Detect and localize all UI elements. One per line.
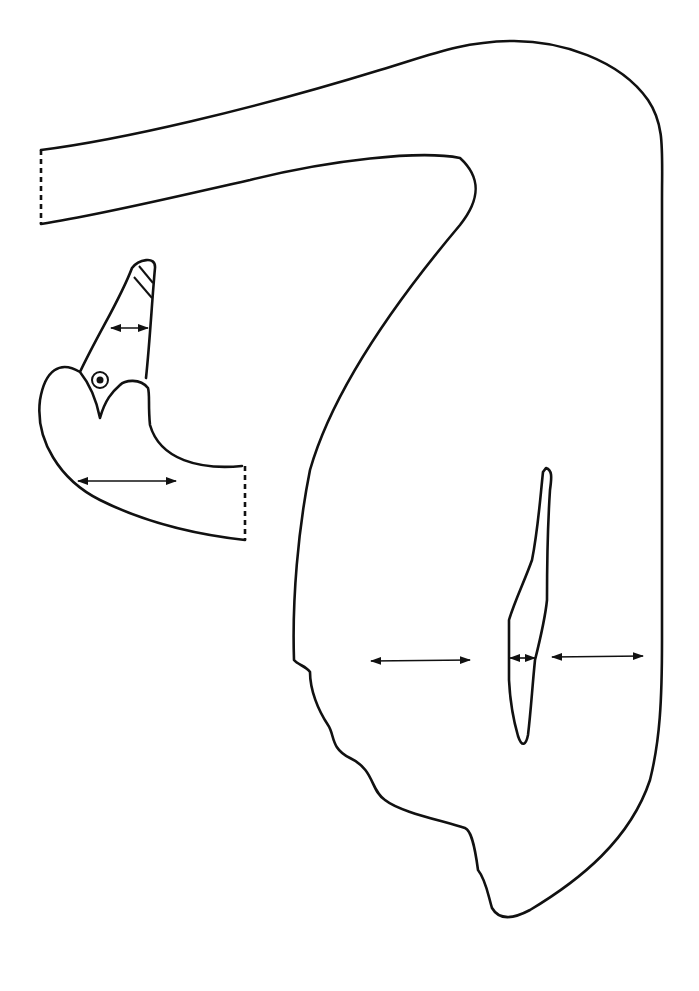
wing-outline xyxy=(509,468,551,744)
wing-piece xyxy=(509,468,551,744)
head-outline xyxy=(39,260,245,540)
head-piece xyxy=(39,260,245,540)
body-piece xyxy=(41,41,662,917)
swan-pattern-drawing xyxy=(0,0,699,991)
body-grain-arrow-left-icon xyxy=(371,660,470,661)
beak-stripe-2 xyxy=(134,277,152,298)
eye-pupil-icon xyxy=(97,377,104,384)
body-outline xyxy=(41,41,662,917)
grain-arrows xyxy=(78,328,643,661)
body-grain-arrow-right-icon xyxy=(552,656,643,657)
beak-stripe-1 xyxy=(139,266,153,283)
